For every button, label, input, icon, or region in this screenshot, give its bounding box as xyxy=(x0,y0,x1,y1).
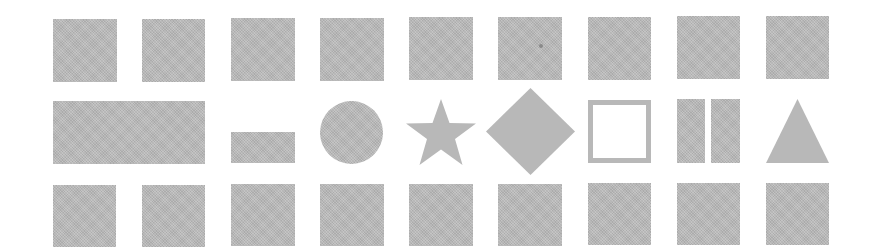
bottom-square-9 xyxy=(766,183,829,245)
bottom-square-4 xyxy=(320,184,384,246)
top-square-7 xyxy=(588,17,651,80)
top-square-4 xyxy=(320,18,384,81)
triangle-icon xyxy=(766,99,829,163)
bottom-square-6 xyxy=(498,184,562,246)
circle xyxy=(320,101,383,164)
dark-speck xyxy=(539,44,543,48)
hollow-square xyxy=(588,100,651,163)
twin-bar-left xyxy=(677,99,705,163)
bottom-square-2 xyxy=(142,185,205,247)
wide-rectangle xyxy=(53,101,205,164)
shape-canvas xyxy=(0,0,875,249)
bottom-square-5 xyxy=(409,184,473,246)
top-square-6 xyxy=(498,17,562,80)
twin-bar-right xyxy=(711,99,740,163)
top-square-9 xyxy=(766,16,829,79)
top-square-3 xyxy=(231,18,295,81)
bottom-square-1 xyxy=(53,185,116,247)
top-square-2 xyxy=(142,19,205,82)
top-square-5 xyxy=(409,17,473,80)
top-square-1 xyxy=(53,19,117,82)
bottom-square-7 xyxy=(588,183,651,245)
star-icon xyxy=(405,99,477,165)
bottom-square-8 xyxy=(677,183,740,245)
diamond-icon xyxy=(486,88,575,175)
small-rectangle xyxy=(231,132,295,163)
bottom-square-3 xyxy=(231,184,295,246)
top-square-8 xyxy=(677,16,740,79)
